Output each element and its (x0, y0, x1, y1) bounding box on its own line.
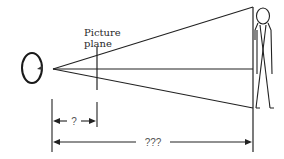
picture-plane-label-line1: Picture (84, 27, 121, 38)
perspective-diagram: Picture plane ? ??? (0, 0, 284, 159)
picture-plane-label-line2: plane (84, 38, 112, 49)
stick-figure-icon (255, 8, 274, 108)
eye-icon (22, 53, 43, 83)
far-distance-label: ??? (145, 137, 162, 148)
sight-lines (53, 7, 253, 108)
near-distance-label: ? (71, 116, 77, 127)
lower-sight-line (53, 69, 253, 108)
upper-sight-line (53, 7, 253, 69)
